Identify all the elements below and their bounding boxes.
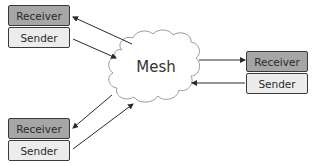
receiver-box: Receiver	[8, 5, 70, 26]
mesh-label: Mesh	[128, 58, 184, 76]
sender-box: Sender	[246, 73, 308, 94]
arrow-bottom-left-sender-to-mesh	[73, 104, 133, 149]
receiver-box: Receiver	[246, 51, 308, 72]
node-bottom-left: Receiver Sender	[8, 118, 70, 161]
receiver-box: Receiver	[8, 118, 70, 139]
node-right: Receiver Sender	[246, 51, 308, 94]
node-top-left: Receiver Sender	[8, 5, 70, 48]
arrow-mesh-to-top-left-receiver	[73, 17, 132, 44]
sender-box: Sender	[8, 140, 70, 161]
arrow-top-left-sender-to-mesh	[73, 39, 116, 58]
sender-box: Sender	[8, 27, 70, 48]
arrow-mesh-to-bottom-left-receiver	[73, 95, 112, 128]
